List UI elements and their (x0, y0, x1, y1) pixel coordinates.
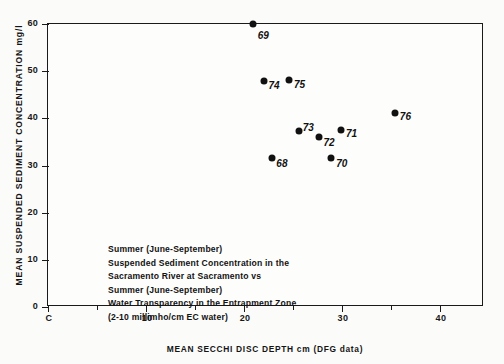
x-tick-label: C (46, 313, 53, 323)
caption-line-2: Suspended Sediment Concentration in the (108, 257, 296, 271)
data-point-label-73: 73 (303, 122, 314, 133)
x-axis-title: MEAN SECCHI DISC DEPTH cm (DFG data) (47, 344, 483, 354)
y-axis-title: MEAN SUSPENDED SEDIMENT CONCENTRATION mg… (14, 10, 24, 300)
x-tick-label: 40 (436, 313, 447, 323)
plot-frame: 0102030405060 C10203040 6974757673727168… (47, 23, 483, 306)
caption-line-4: Summer (June-September) (108, 284, 296, 298)
y-tick-label: 0 (33, 301, 38, 311)
y-tick-label: 50 (27, 65, 38, 75)
y-tick-label: 10 (27, 254, 38, 264)
data-point-label-74: 74 (269, 80, 280, 91)
data-point-label-75: 75 (294, 79, 305, 90)
caption-line-1: Summer (June-September) (108, 243, 296, 257)
data-point-label-68: 68 (276, 157, 287, 168)
data-point-73 (295, 128, 302, 135)
data-point-72 (316, 134, 323, 141)
x-tick-40: 40 (440, 305, 441, 312)
y-tick-20: 20 (42, 213, 49, 214)
x-tick-C: C (48, 305, 49, 312)
data-point-label-76: 76 (400, 111, 411, 122)
data-point-label-70: 70 (336, 157, 347, 168)
x-tick-minor (97, 305, 98, 310)
data-point-76 (391, 110, 398, 117)
data-point-71 (337, 127, 344, 134)
data-point-label-72: 72 (323, 137, 334, 148)
y-tick-10: 10 (42, 260, 49, 261)
y-tick-40: 40 (42, 118, 49, 119)
data-point-69 (249, 21, 256, 28)
caption-line-6: (2-10 millimho/cm EC water) (108, 311, 296, 325)
y-tick-50: 50 (42, 71, 49, 72)
x-tick-label: 30 (338, 313, 349, 323)
y-tick-label: 20 (27, 207, 38, 217)
data-point-74 (260, 78, 267, 85)
y-tick-30: 30 (42, 166, 49, 167)
caption-line-3: Sacramento River at Sacramento vs (108, 270, 296, 284)
y-tick-label: 30 (27, 160, 38, 170)
y-tick-label: 40 (27, 112, 38, 122)
data-point-75 (286, 77, 293, 84)
caption-block: Summer (June-September)Suspended Sedimen… (108, 243, 296, 325)
data-point-68 (269, 154, 276, 161)
y-tick-60: 60 (42, 24, 49, 25)
y-tick-label: 60 (27, 18, 38, 28)
data-point-70 (328, 154, 335, 161)
data-point-label-69: 69 (258, 30, 269, 41)
x-tick-minor (391, 305, 392, 310)
x-tick-30: 30 (342, 305, 343, 312)
data-point-label-71: 71 (346, 128, 357, 139)
caption-line-5: Water Transparency in the Entrapment Zon… (108, 297, 296, 311)
scatter-plot-figure: MEAN SUSPENDED SEDIMENT CONCENTRATION mg… (0, 0, 504, 364)
